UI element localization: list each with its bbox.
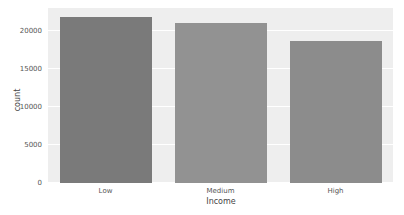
y-tick-label: 20000: [20, 27, 42, 35]
x-tick-label: Medium: [207, 187, 235, 195]
y-axis-label: count: [13, 89, 22, 112]
bar-low: [60, 17, 152, 183]
y-tick-label: 15000: [20, 65, 42, 73]
x-tick-label: High: [327, 187, 343, 195]
bar-medium: [175, 23, 267, 183]
y-tick-label: 0: [38, 179, 42, 187]
bar-high: [290, 41, 382, 183]
plot-area: [48, 8, 393, 183]
x-tick-label: Low: [99, 187, 113, 195]
y-tick-label: 10000: [20, 103, 42, 111]
x-axis-label: Income: [206, 197, 235, 206]
y-tick-label: 5000: [24, 141, 42, 149]
